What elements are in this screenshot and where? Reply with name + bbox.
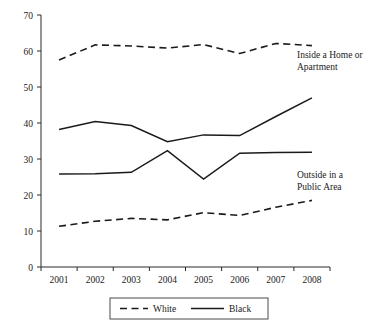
chart-container: 010203040506070 200120022003200420052006…	[0, 0, 375, 324]
x-tick-label: 2004	[158, 275, 177, 285]
legend-label-black: Black	[229, 304, 251, 314]
annotation-inside-home: Inside a Home or Apartment	[297, 50, 364, 72]
legend: White Black	[110, 298, 268, 319]
series-line-white-inside-a-home-or-apartment	[59, 43, 312, 60]
y-tick-label: 50	[24, 83, 34, 93]
y-tick-label: 60	[24, 47, 34, 57]
annotation-outside-public: Outside in a Public Area	[297, 170, 344, 192]
y-tick-label: 70	[24, 11, 34, 21]
y-tick-label: 20	[24, 191, 34, 201]
x-tick-label: 2005	[194, 275, 213, 285]
x-tick-label: 2003	[122, 275, 141, 285]
series-line-black-inside-a-home-or-apartment	[59, 98, 312, 142]
annotation-outside-public-line1: Outside in a	[297, 170, 344, 180]
y-tick-label: 0	[28, 263, 33, 273]
y-tick-label: 30	[24, 155, 34, 165]
series-group	[59, 43, 312, 226]
x-tick-label: 2007	[266, 275, 285, 285]
y-axis: 010203040506070	[24, 11, 42, 273]
x-tick-label: 2006	[230, 275, 249, 285]
line-chart: 010203040506070 200120022003200420052006…	[0, 0, 375, 324]
annotation-inside-home-line1: Inside a Home or	[297, 50, 364, 60]
series-line-black-outside-in-a-public-area	[59, 151, 312, 179]
x-tick-group: 20012002200320042005200620072008	[41, 267, 330, 285]
x-tick-label: 2001	[50, 275, 69, 285]
y-tick-label: 40	[24, 119, 34, 129]
x-tick-label: 2008	[302, 275, 321, 285]
x-axis: 20012002200320042005200620072008	[41, 267, 330, 285]
legend-label-white: White	[153, 304, 176, 314]
annotation-outside-public-line2: Public Area	[297, 182, 342, 192]
x-tick-label: 2002	[86, 275, 105, 285]
annotation-inside-home-line2: Apartment	[297, 62, 338, 72]
y-tick-label: 10	[24, 227, 34, 237]
y-tick-group: 010203040506070	[24, 11, 42, 273]
series-line-white-outside-in-a-public-area	[59, 200, 312, 226]
